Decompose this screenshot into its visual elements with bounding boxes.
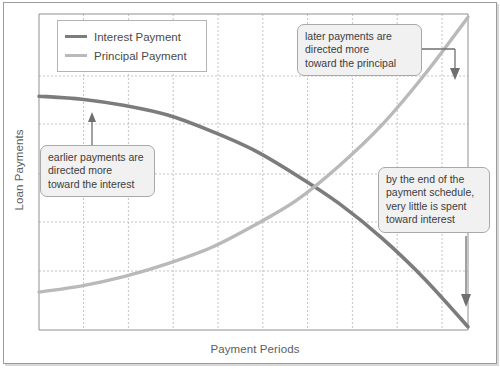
annotation-end-of-schedule: by the end of the payment schedule, very…	[378, 167, 490, 233]
legend-swatch-interest-icon	[65, 35, 87, 38]
annotation-end-line-3: very little is spent	[386, 200, 482, 213]
annotation-later-line-1: later payments are	[305, 30, 414, 43]
y-axis-title: Loan Payments	[13, 115, 25, 225]
annotation-later-line-2: directed more	[305, 43, 414, 56]
chart-legend: Interest Payment Principal Payment	[57, 20, 207, 72]
annotation-end-line-2: payment schedule,	[386, 186, 482, 199]
chart-figure: Loan Payments Payment Periods Interest P…	[0, 0, 500, 369]
legend-item-principal: Principal Payment	[65, 46, 198, 65]
annotation-earlier-payments: earlier payments are directed more towar…	[40, 145, 155, 197]
annotation-later-line-3: toward the principal	[305, 57, 414, 70]
x-axis-title: Payment Periods	[140, 343, 370, 355]
annotation-end-line-1: by the end of the	[386, 173, 482, 186]
annotation-later-payments: later payments are directed more toward …	[297, 24, 422, 76]
legend-label-interest: Interest Payment	[94, 31, 181, 43]
legend-item-interest: Interest Payment	[65, 27, 198, 46]
legend-swatch-principal-icon	[65, 54, 87, 57]
annotation-end-line-4: toward interest	[386, 213, 482, 226]
legend-label-principal: Principal Payment	[94, 50, 187, 62]
annotation-earlier-line-3: toward the interest	[48, 178, 147, 191]
annotation-earlier-line-2: directed more	[48, 164, 147, 177]
annotation-arrow-earlier	[88, 112, 96, 145]
annotation-earlier-line-1: earlier payments are	[48, 151, 147, 164]
annotation-arrow-end	[461, 236, 471, 307]
